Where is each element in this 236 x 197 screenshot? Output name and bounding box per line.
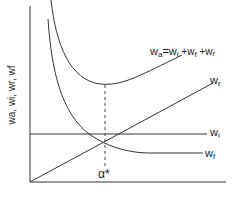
wa-label: wa=wi +wf +wr <box>149 45 215 59</box>
y-axis-label: wa, wi, wr, wf <box>6 65 17 125</box>
wf-curve <box>48 19 203 153</box>
cost-diagram: wa=wi +wf +wr wr wi wf α* wa, wi, wr, wf <box>0 0 236 197</box>
wr-label: wr <box>209 74 221 88</box>
optimum-label: α* <box>98 167 110 181</box>
wi-label: wi <box>209 126 220 140</box>
wa-curve <box>51 0 182 84</box>
wf-label: wf <box>204 147 216 161</box>
wr-curve <box>30 83 213 182</box>
